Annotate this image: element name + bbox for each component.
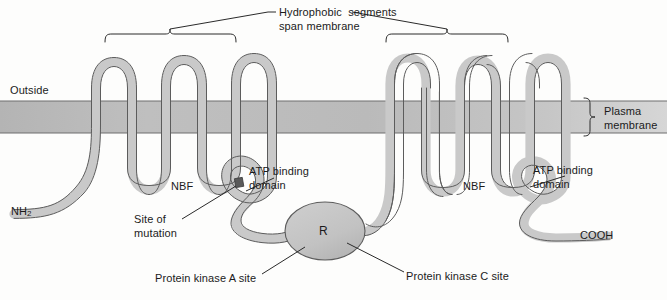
protein-kinase-a-site-label: Protein kinase A site bbox=[155, 272, 256, 285]
hydrophobic-bracket-right bbox=[386, 29, 508, 42]
cftr-topology-figure: Hydrophobic segments span membrane Outsi… bbox=[0, 0, 667, 300]
hydrophobic-segments-label-line1: Hydrophobic segments bbox=[279, 6, 397, 19]
plasma-membrane-label-line2: membrane bbox=[604, 119, 657, 132]
protein-kinase-c-site-label: Protein kinase C site bbox=[406, 270, 509, 283]
outside-label: Outside bbox=[10, 84, 49, 97]
plasma-membrane-label-line1: Plasma bbox=[604, 105, 641, 118]
hydrophobic-segments-label-line2: span membrane bbox=[279, 20, 360, 33]
nbf-left-label: NBF bbox=[171, 180, 193, 193]
atp-binding-domain-left-line2: domain bbox=[249, 179, 286, 192]
atp-binding-domain-right-line2: domain bbox=[533, 178, 570, 191]
n-terminus-text: NH bbox=[11, 205, 27, 217]
site-of-mutation-line1: Site of bbox=[134, 213, 166, 226]
n-terminus-label: NH2 bbox=[11, 205, 32, 218]
c-terminus-label: COOH bbox=[580, 229, 613, 242]
atp-binding-domain-right-line1: ATP binding bbox=[533, 164, 593, 177]
protein-chain-left bbox=[14, 58, 298, 239]
r-domain-label: R bbox=[319, 224, 328, 238]
atp-binding-domain-left-line1: ATP binding bbox=[249, 165, 309, 178]
diagram-canvas bbox=[0, 0, 667, 300]
n-terminus-subscript: 2 bbox=[27, 209, 32, 218]
site-of-mutation-line2: mutation bbox=[134, 227, 177, 240]
hydrophobic-bracket-left bbox=[105, 29, 236, 42]
nbf-right-label: NBF bbox=[463, 180, 485, 193]
